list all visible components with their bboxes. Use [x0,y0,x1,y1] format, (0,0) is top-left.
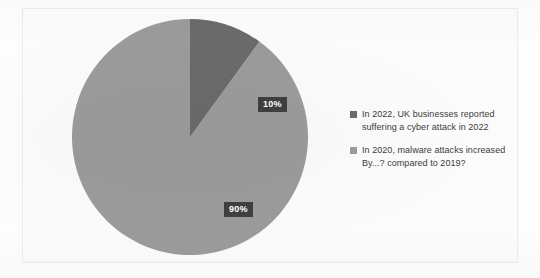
slide-canvas: 10% 90% In 2022, UK businesses reported … [0,0,540,278]
legend-swatch-icon [350,111,357,118]
pie-slice-malware-increase-2020[interactable] [72,19,308,255]
legend-swatch-icon [350,147,357,154]
legend-item-malware-increase-2020[interactable]: In 2020, malware attacks increased By...… [350,144,518,169]
legend-item-cyber-attack-2022[interactable]: In 2022, UK businesses reported sufferin… [350,108,518,133]
legend-item-label: In 2022, UK businesses reported sufferin… [362,108,495,133]
chart-legend: In 2022, UK businesses reported sufferin… [350,108,518,180]
legend-label-line2: suffering a cyber attack in 2022 [362,122,489,132]
legend-label-line2: By...? compared to 2019? [362,158,466,168]
legend-label-line1: In 2022, UK businesses reported [362,109,495,119]
pie-chart: 10% 90% [72,19,308,255]
pie-data-label-10: 10% [258,97,287,112]
pie-data-label-90: 90% [224,202,253,217]
pie-chart-svg [72,19,308,255]
legend-item-label: In 2020, malware attacks increased By...… [362,144,505,169]
legend-label-line1: In 2020, malware attacks increased [362,145,505,155]
